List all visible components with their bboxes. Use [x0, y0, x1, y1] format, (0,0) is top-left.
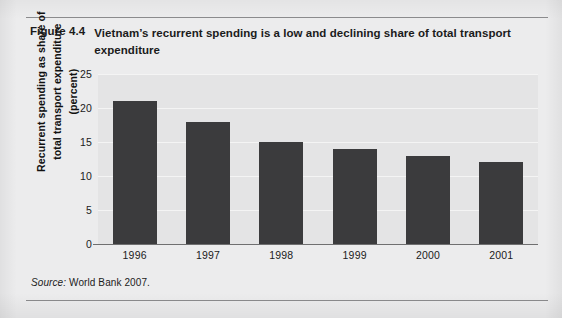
bar-slot-1999 [318, 74, 391, 244]
source-label: Source: [31, 277, 66, 288]
bottom-rule [26, 300, 548, 301]
y-tick-5: 5 [86, 204, 92, 216]
y-tick-0: 0 [86, 238, 92, 250]
bar-slot-1997 [171, 74, 244, 244]
bar-slot-1996 [98, 74, 171, 244]
bar-1998 [259, 142, 303, 244]
bar-1996 [113, 101, 157, 244]
bar-series [98, 74, 538, 244]
y-tick-20: 20 [80, 102, 92, 114]
x-tick-2000: 2000 [391, 249, 464, 261]
bar-slot-2001 [465, 74, 538, 244]
page-title: Vietnam’s recurrent spending is a low an… [94, 25, 535, 58]
x-tick-1997: 1997 [171, 249, 244, 261]
y-tick-25: 25 [80, 68, 92, 80]
source-note: Source: World Bank 2007. [31, 277, 150, 288]
x-tick-1999: 1999 [318, 249, 391, 261]
bar-slot-1998 [245, 74, 318, 244]
bar-slot-2000 [391, 74, 464, 244]
x-axis-line [93, 244, 538, 245]
bar-2001 [479, 162, 523, 244]
x-tick-2001: 2001 [465, 249, 538, 261]
y-tick-10: 10 [80, 170, 92, 182]
figure-title-block: Figure 4.4 Vietnam’s recurrent spending … [30, 25, 535, 58]
x-tick-1996: 1996 [98, 249, 171, 261]
y-tick-15: 15 [80, 136, 92, 148]
source-value: World Bank 2007. [69, 277, 150, 288]
bar-1999 [333, 149, 377, 244]
chart-plot [98, 74, 538, 244]
figure-container: Figure 4.4 Vietnam’s recurrent spending … [0, 0, 562, 318]
x-axis-ticks: 1996 1997 1998 1999 2000 2001 [98, 249, 538, 261]
y-axis-ticks: 25 20 15 10 5 0 [70, 74, 92, 244]
bar-2000 [406, 156, 450, 244]
top-rule [26, 17, 548, 18]
bar-1997 [186, 122, 230, 244]
x-tick-1998: 1998 [245, 249, 318, 261]
